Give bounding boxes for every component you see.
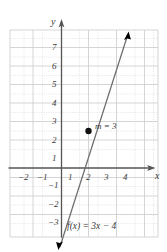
axis-arrowheads xyxy=(59,19,156,171)
graph-figure: y x 7 6 5 4 3 2 1 −1 −2 −3 −2 −1 1 2 3 4… xyxy=(0,0,167,252)
x-tick-label-minus2: −2 xyxy=(18,173,29,182)
x-tick-label-minus1: −1 xyxy=(37,173,48,182)
y-tick-label-6: 6 xyxy=(52,62,57,71)
y-tick-label-1: 1 xyxy=(52,154,57,163)
slope-annotation: m = 3 xyxy=(95,122,117,131)
y-tick-label-7: 7 xyxy=(52,43,57,52)
coordinate-plane-svg xyxy=(0,0,167,252)
line-arrow-up xyxy=(124,32,131,41)
x-tick-label-2: 2 xyxy=(86,173,91,182)
y-tick-label-5: 5 xyxy=(52,80,57,89)
x-tick-label-4: 4 xyxy=(123,173,128,182)
x-tick-label-3: 3 xyxy=(104,173,109,182)
y-tick-label-4: 4 xyxy=(52,99,57,108)
y-tick-label-3: 3 xyxy=(52,117,57,126)
grid-major-lines xyxy=(10,30,158,237)
x-axis-label: x xyxy=(155,171,159,181)
y-tick-label-2: 2 xyxy=(52,136,57,145)
point-marker xyxy=(85,128,91,134)
function-annotation: f(x) = 3x − 4 xyxy=(67,222,116,232)
line-arrow-down xyxy=(56,242,63,250)
y-axis-label: y xyxy=(51,17,55,27)
function-line xyxy=(56,32,131,251)
grid-minor-lines xyxy=(10,30,158,237)
y-tick-label-minus1: −1 xyxy=(48,181,59,190)
y-tick-label-minus2: −2 xyxy=(48,200,59,209)
x-tick-label-1: 1 xyxy=(68,173,73,182)
y-tick-label-minus3: −3 xyxy=(48,218,59,227)
